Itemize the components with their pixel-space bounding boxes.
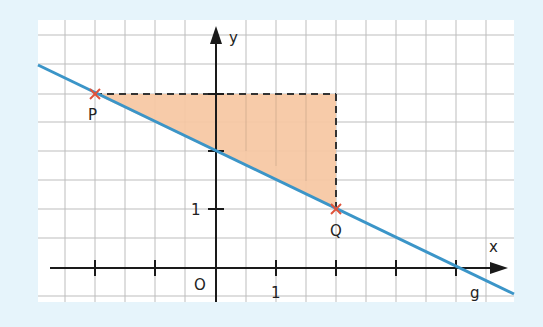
line-g-label: g bbox=[470, 284, 480, 302]
point-p-label: P bbox=[88, 106, 97, 124]
origin-label: O bbox=[194, 276, 206, 294]
x-axis-label: x bbox=[489, 238, 498, 256]
x-unit-label: 1 bbox=[271, 284, 281, 302]
point-q-label: Q bbox=[330, 222, 342, 240]
coordinate-diagram: y x O 1 1 P Q g bbox=[0, 0, 543, 327]
y-axis-label: y bbox=[229, 29, 238, 47]
y-unit-label: 1 bbox=[191, 201, 201, 219]
